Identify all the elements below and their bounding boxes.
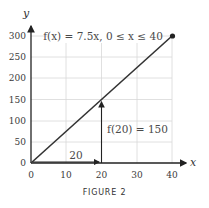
svg-text:100: 100 [9, 116, 26, 126]
y-tick-labels: 0 50 100 150 200 250 300 [9, 31, 26, 168]
svg-text:30: 30 [131, 170, 143, 180]
svg-text:0: 0 [20, 158, 26, 168]
endpoint-dot [170, 33, 175, 38]
y-axis-label: y [22, 7, 30, 20]
svg-text:0: 0 [28, 170, 34, 180]
svg-text:200: 200 [9, 73, 26, 83]
x-axis-label: x [190, 156, 197, 169]
svg-text:20: 20 [96, 170, 108, 180]
svg-text:10: 10 [60, 170, 72, 180]
svg-text:150: 150 [9, 95, 26, 105]
point-label: f(20) = 150 [107, 123, 168, 135]
arrow-label: 20 [69, 149, 82, 161]
x-tick-labels: 0 10 20 30 40 [28, 170, 178, 180]
svg-text:300: 300 [9, 31, 26, 41]
svg-text:40: 40 [166, 170, 178, 180]
svg-text:50: 50 [15, 137, 27, 147]
function-label: f(x) = 7.5x, 0 ≤ x ≤ 40 [43, 30, 163, 42]
chart-canvas: y x 0 50 100 150 200 250 300 0 10 20 30 … [0, 0, 209, 208]
figure-caption: FIGURE 2 [0, 188, 209, 197]
svg-text:250: 250 [9, 52, 26, 62]
